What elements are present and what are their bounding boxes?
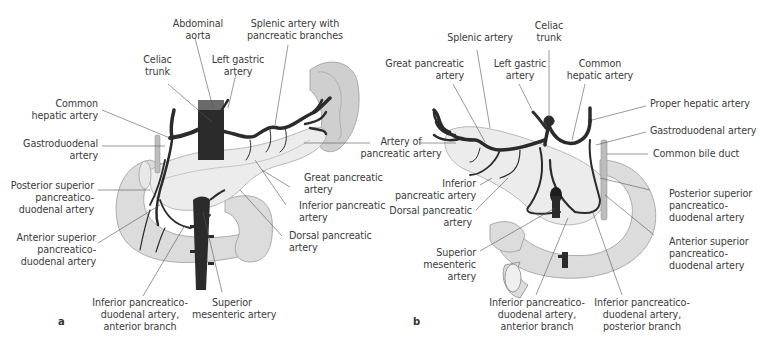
label-line: Anterior superior — [4, 232, 96, 244]
label-inferior-pancreatic-b: Inferior pancreatic artery — [388, 178, 476, 202]
label-line: artery — [10, 150, 98, 162]
pancreas-arterial-supply-figure: Abdominal aorta Splenic artery with panc… — [0, 0, 760, 350]
label-line: posterior branch — [590, 321, 694, 333]
label-line: Common bile duct — [653, 148, 739, 160]
label-line: Dorsal pancreatic — [289, 230, 372, 242]
label-line: hepatic artery — [20, 110, 98, 122]
label-line: artery — [490, 70, 550, 82]
label-line: duodenal artery — [4, 204, 94, 216]
label-posterior-superior-pd-a: Posterior superior pancreatico- duodenal… — [4, 180, 94, 216]
label-common-hepatic-b: Common hepatic artery — [560, 58, 640, 82]
label-superior-mesenteric-a: Superior mesenteric artery — [192, 297, 272, 321]
label-dorsal-pancreatic-a: Dorsal pancreatic artery — [289, 230, 372, 254]
label-line: aorta — [168, 30, 228, 42]
label-line: Inferior pancreatic — [299, 200, 385, 212]
label-line: mesenteric artery — [192, 309, 272, 321]
label-line: pancreatico- — [669, 200, 752, 212]
label-line: Splenic artery with — [245, 18, 345, 30]
label-inferior-pd-posterior-b: Inferior pancreatico- duodenal artery, p… — [590, 297, 694, 333]
label-line: Inferior pancreatico- — [485, 297, 589, 309]
label-line: Abdominal — [168, 18, 228, 30]
label-splenic-artery-with-branches: Splenic artery with pancreatic branches — [245, 18, 345, 42]
label-line: Posterior superior — [4, 180, 94, 192]
label-line: Left gastric — [490, 58, 550, 70]
label-line: Gastroduodenal artery — [650, 125, 756, 137]
label-splenic-artery-b: Splenic artery — [440, 32, 520, 44]
label-proper-hepatic-b: Proper hepatic artery — [650, 98, 750, 110]
label-line: artery — [378, 70, 464, 82]
label-abdominal-aorta: Abdominal aorta — [168, 18, 228, 42]
label-line: duodenal artery — [669, 212, 752, 224]
label-line: Inferior — [388, 178, 476, 190]
label-line: pancreatic artery — [388, 190, 476, 202]
label-line: artery — [289, 242, 372, 254]
label-gastroduodenal-a: Gastroduodenal artery — [10, 138, 98, 162]
label-line: artery — [299, 212, 385, 224]
label-line: Anterior superior — [669, 236, 749, 248]
label-superior-mesenteric-b: Superior mesenteric artery — [400, 247, 476, 283]
label-line: Celiac — [135, 54, 180, 66]
label-great-pancreatic-b: Great pancreatic artery — [378, 58, 464, 82]
label-inferior-pd-anterior-a: Inferior pancreatico- duodenal artery, a… — [90, 297, 190, 333]
label-line: duodenal artery, — [485, 309, 589, 321]
label-gastroduodenal-b: Gastroduodenal artery — [650, 125, 756, 137]
label-inferior-pd-anterior-b: Inferior pancreatico- duodenal artery, a… — [485, 297, 589, 333]
label-line: pancreatico- — [669, 248, 749, 260]
label-line: trunk — [529, 32, 569, 44]
label-line: mesenteric — [400, 259, 476, 271]
label-common-hepatic-a: Common hepatic artery — [20, 98, 98, 122]
label-line: artery — [400, 271, 476, 283]
label-line: Gastroduodenal — [10, 138, 98, 150]
label-line: Great pancreatic — [304, 172, 383, 184]
label-line: pancreatico- — [4, 244, 96, 256]
label-left-gastric-b: Left gastric artery — [490, 58, 550, 82]
label-line: Inferior pancreatico- — [590, 297, 694, 309]
label-line: anterior branch — [90, 321, 190, 333]
label-posterior-superior-pd-b: Posterior superior pancreatico- duodenal… — [669, 188, 752, 224]
label-common-bile-duct-b: Common bile duct — [653, 148, 739, 160]
label-line: Superior — [192, 297, 272, 309]
label-inferior-pancreatic-a: Inferior pancreatic artery — [299, 200, 385, 224]
label-anterior-superior-pd-b: Anterior superior pancreatico- duodenal … — [669, 236, 749, 272]
label-line: Artery of — [356, 136, 446, 148]
label-line: trunk — [135, 66, 180, 78]
label-line: duodenal artery — [4, 256, 96, 268]
label-line: Celiac — [529, 20, 569, 32]
label-line: Great pancreatic — [378, 58, 464, 70]
label-line: hepatic artery — [560, 70, 640, 82]
label-line: artery — [304, 184, 383, 196]
label-line: Inferior pancreatico- — [90, 297, 190, 309]
label-dorsal-pancreatic-b: Dorsal pancreatic artery — [380, 205, 472, 229]
label-line: artery — [380, 217, 472, 229]
label-artery-of-pancreatic-tail: Artery of pancreatic artery — [356, 136, 446, 160]
panel-letter-b: b — [413, 316, 420, 327]
label-line: Common — [560, 58, 640, 70]
label-line: duodenal artery, — [90, 309, 190, 321]
label-line: anterior branch — [485, 321, 589, 333]
label-line: duodenal artery — [669, 260, 749, 272]
label-line: Dorsal pancreatic — [380, 205, 472, 217]
label-left-gastric-a: Left gastric artery — [208, 54, 268, 78]
label-anterior-superior-pd-a: Anterior superior pancreatico- duodenal … — [4, 232, 96, 268]
panel-letter-a: a — [58, 316, 65, 327]
label-celiac-trunk-a: Celiac trunk — [135, 54, 180, 78]
label-line: Superior — [400, 247, 476, 259]
label-line: Left gastric — [208, 54, 268, 66]
label-line: pancreatic branches — [245, 30, 345, 42]
label-celiac-trunk-b: Celiac trunk — [529, 20, 569, 44]
label-line: pancreatico- — [4, 192, 94, 204]
label-line: Splenic artery — [440, 32, 520, 44]
label-line: Common — [20, 98, 98, 110]
label-line: Posterior superior — [669, 188, 752, 200]
label-line: pancreatic artery — [356, 148, 446, 160]
label-great-pancreatic-a: Great pancreatic artery — [304, 172, 383, 196]
label-line: Proper hepatic artery — [650, 98, 750, 110]
label-line: artery — [208, 66, 268, 78]
label-line: duodenal artery, — [590, 309, 694, 321]
